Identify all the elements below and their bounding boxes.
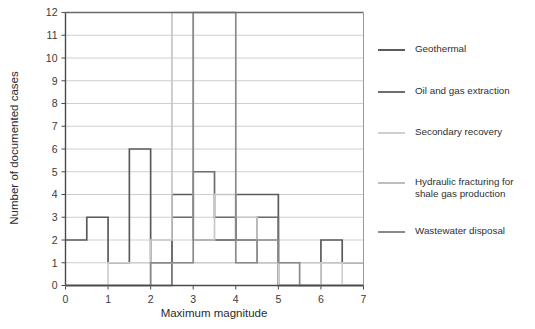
x-tick-label: 6 bbox=[318, 293, 324, 305]
y-tick-label: 5 bbox=[52, 166, 58, 178]
legend-label: Secondary recovery bbox=[415, 126, 533, 138]
legend-swatch-icon bbox=[378, 91, 405, 93]
y-tick-label: 8 bbox=[52, 97, 58, 109]
chart-legend: GeothermalOil and gas extractionSecondar… bbox=[378, 0, 535, 329]
y-tick-label: 12 bbox=[46, 6, 58, 18]
y-axis-title: Number of documented cases bbox=[8, 71, 20, 225]
y-tick-label: 2 bbox=[52, 234, 58, 246]
x-tick-label: 7 bbox=[361, 293, 367, 305]
legend-swatch-icon bbox=[378, 231, 405, 233]
legend-label: Geothermal bbox=[415, 43, 533, 55]
legend-swatch-icon bbox=[378, 49, 405, 51]
legend-label: Hydraulic fracturing for shale gas produ… bbox=[415, 176, 533, 199]
y-tick-label: 1 bbox=[52, 257, 58, 269]
x-axis-ticks: 01234567 bbox=[63, 286, 367, 305]
x-tick-label: 4 bbox=[233, 293, 239, 305]
chart-figure: 0123456789101112 01234567 Maximum magnit… bbox=[0, 0, 535, 329]
x-tick-label: 2 bbox=[148, 293, 154, 305]
legend-swatch-icon bbox=[378, 132, 405, 134]
x-axis-title: Maximum magnitude bbox=[161, 307, 268, 319]
y-tick-label: 7 bbox=[52, 120, 58, 132]
series-line-2 bbox=[66, 263, 364, 286]
y-tick-label: 6 bbox=[52, 143, 58, 155]
x-tick-label: 5 bbox=[275, 293, 281, 305]
y-tick-label: 11 bbox=[47, 29, 58, 41]
y-tick-label: 0 bbox=[52, 279, 58, 291]
x-tick-label: 0 bbox=[63, 293, 69, 305]
y-tick-label: 9 bbox=[52, 75, 58, 87]
y-tick-label: 3 bbox=[52, 211, 58, 223]
y-tick-label: 4 bbox=[52, 188, 58, 200]
y-axis-ticks: 0123456789101112 bbox=[46, 6, 66, 291]
legend-label: Wastewater disposal bbox=[415, 225, 533, 237]
y-tick-label: 10 bbox=[46, 52, 58, 64]
legend-label: Oil and gas extraction bbox=[415, 85, 533, 97]
x-tick-label: 3 bbox=[190, 293, 196, 305]
legend-swatch-icon bbox=[378, 182, 405, 184]
x-tick-label: 1 bbox=[105, 293, 111, 305]
